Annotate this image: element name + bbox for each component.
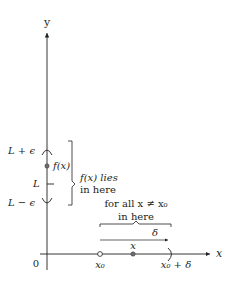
upper-bound-label: L + ϵ	[7, 145, 35, 156]
x0-plus-delta-label: x₀ + δ	[161, 259, 191, 270]
delta-label: δ	[152, 227, 158, 238]
y-axis: y	[43, 16, 51, 270]
fx-point-label: f(x)	[52, 160, 70, 171]
x-brace	[100, 221, 171, 227]
origin-label: 0	[33, 258, 39, 269]
fx-point	[45, 164, 49, 168]
lower-bound-label: L − ϵ	[7, 197, 35, 208]
y-bracket-text-line2: in here	[80, 184, 116, 195]
x-interval: for all x ≠ x₀ in here δ x₀ x x₀ + δ	[95, 198, 191, 270]
y-interval: L + ϵ f(x) L L − ϵ f(x) lies in here	[7, 141, 118, 208]
x-axis: x 0	[33, 247, 223, 269]
y-bracket	[68, 141, 75, 205]
x-brace-text-line2: in here	[118, 211, 154, 222]
x-axis-label: x	[216, 247, 223, 260]
y-axis-label: y	[43, 16, 51, 29]
x0-label: x₀	[95, 259, 105, 270]
x-point	[131, 252, 135, 256]
x0-open-point	[98, 252, 103, 257]
epsilon-delta-diagram: y x 0 L + ϵ f(x) L L − ϵ f(x) lies in he…	[0, 0, 226, 286]
L-label: L	[32, 178, 40, 189]
x-brace-text-line1: for all x ≠ x₀	[104, 198, 167, 209]
y-bracket-text-line1: f(x) lies	[79, 172, 118, 183]
x-point-label: x	[130, 240, 136, 251]
